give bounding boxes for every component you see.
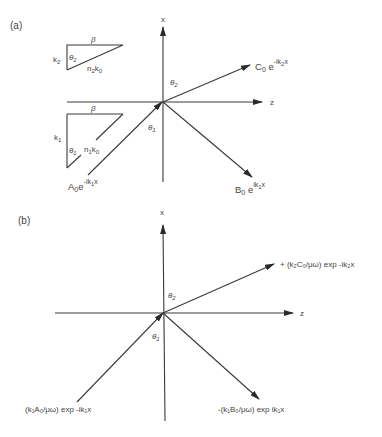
theta2-label-b: θ2: [168, 291, 176, 301]
n1k0-label: n1k0: [84, 145, 100, 155]
transmitted-wave-label: C0 e-ik2x: [255, 58, 288, 73]
x-axis-label: x: [161, 15, 165, 24]
incident-wave-label-b: (k₁A₀/μω) exp -ik₁x: [25, 405, 91, 414]
transmitted-wave-arrow-b: [163, 264, 274, 313]
incident-wave-label: A0e-ik1x: [68, 178, 98, 193]
n2k0-label: n2k0: [87, 64, 103, 74]
incident-wave-arrow-b: [77, 313, 163, 402]
beta-label-lower: β: [90, 104, 96, 113]
x-axis-b: [163, 225, 165, 421]
reflected-wave-label-b: -(k₁B₀/μω) exp ik₁x: [218, 405, 284, 414]
reflected-wave-arrow: [163, 102, 252, 177]
triangle-upper: β k2 θ2 n2k0: [53, 35, 123, 74]
k1-label: k1: [54, 133, 62, 143]
transmitted-wave-label-b: + (k₂C₀/μω) exp -ik₂x: [280, 260, 354, 269]
theta2-triangle-label: θ2: [69, 53, 77, 63]
beta-label-upper: β: [90, 35, 96, 44]
theta2-label: θ2: [170, 78, 178, 88]
panel-a: (a) x z θ2 θ1 C0 e-ik2x B0 eik1x A0e-ik1…: [10, 15, 288, 196]
panel-b: (b) x z θ2 θ1 + (k₂C₀/μω) exp -ik₂x -(k₁…: [18, 208, 354, 421]
panel-a-label: (a): [10, 20, 22, 31]
theta1-label-b: θ1: [152, 332, 160, 342]
reflected-wave-label: B0 eik1x: [235, 181, 266, 196]
z-axis-label-b: z: [300, 309, 304, 318]
k2-label: k2: [53, 55, 61, 65]
z-axis-label: z: [270, 98, 274, 107]
x-axis-label-b: x: [160, 208, 164, 217]
wave-diagram: (a) x z θ2 θ1 C0 e-ik2x B0 eik1x A0e-ik1…: [0, 0, 382, 437]
panel-b-label: (b): [18, 215, 30, 226]
theta1-triangle-label: θ1: [69, 146, 77, 156]
reflected-wave-arrow-b: [163, 313, 259, 399]
incident-wave-arrow: [88, 102, 162, 175]
triangle-lower: β k1 θ1 n1k0: [54, 104, 123, 168]
theta1-label: θ1: [148, 123, 156, 133]
